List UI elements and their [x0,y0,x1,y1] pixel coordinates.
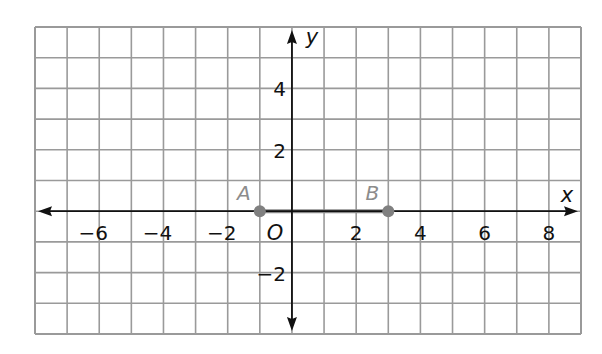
x-axis-arrow-right-icon [564,206,578,216]
x-tick-label: 8 [543,221,556,245]
tick-labels: −6−4−2246842−2xyO [78,25,573,286]
point-label-a: A [235,181,251,205]
x-tick-label: 2 [350,221,363,245]
y-axis-arrow-up-icon [287,30,297,44]
grid-lines [35,27,581,334]
x-tick-label: 6 [478,221,491,245]
y-tick-label: −2 [256,262,285,286]
x-tick-label: 4 [414,221,427,245]
y-axis-arrow-down-icon [287,317,297,331]
point-a [254,205,266,217]
point-label-b: B [365,181,379,205]
x-tick-label: −6 [78,221,107,245]
y-tick-label: 4 [273,77,286,101]
x-axis-arrow-left-icon [38,206,52,216]
point-b [382,205,394,217]
y-axis-label: y [305,25,319,49]
y-tick-label: 2 [273,139,286,163]
coordinate-plane: −6−4−2246842−2xyO AB [0,0,602,354]
x-tick-label: −4 [143,221,172,245]
x-tick-label: −2 [207,221,236,245]
x-axis-label: x [560,183,574,207]
origin-label: O [267,221,284,245]
